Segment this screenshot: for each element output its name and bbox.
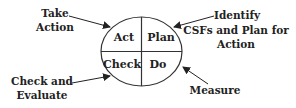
annotation-check-line2: Evaluate — [17, 89, 68, 101]
arrow-check — [72, 76, 110, 83]
arrow-act — [69, 16, 110, 27]
annotation-plan-line3: Action — [216, 38, 255, 50]
pdca-diagram: Act Plan Check Do Take Action Identify C… — [0, 0, 296, 108]
annotation-plan-line2: CSFs and Plan for — [183, 24, 289, 36]
annotation-check-line1: Check and — [11, 75, 73, 87]
annotation-act-line2: Action — [35, 21, 74, 33]
quadrant-check: Check — [103, 58, 141, 71]
quadrant-act: Act — [113, 31, 135, 44]
quadrant-do: Do — [150, 58, 167, 71]
annotation-plan-line1: Identify — [214, 9, 261, 21]
quadrant-plan: Plan — [147, 31, 175, 44]
arrow-do — [183, 67, 208, 84]
annotation-do-line1: Measure — [190, 84, 241, 96]
annotation-act-line1: Take — [41, 7, 69, 19]
